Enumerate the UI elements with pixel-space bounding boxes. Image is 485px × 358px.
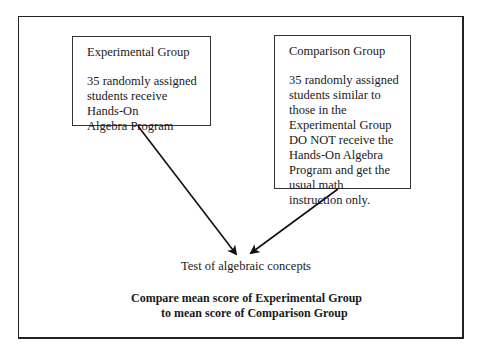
compare-means-line-1: Compare mean score of Experimental Group bbox=[131, 291, 362, 306]
comparison-group-title: Comparison Group bbox=[289, 44, 400, 59]
comparison-group-description: 35 randomly assigned students similar to… bbox=[289, 73, 400, 208]
experimental-group-description: 35 randomly assigned students receive Ha… bbox=[87, 74, 200, 134]
test-label: Test of algebraic concepts bbox=[181, 259, 311, 274]
experimental-group-box: Experimental Group 35 randomly assigned … bbox=[72, 36, 211, 126]
compare-means-line-2: to mean score of Comparison Group bbox=[131, 306, 362, 321]
comparison-group-box: Comparison Group 35 randomly assigned st… bbox=[274, 35, 411, 189]
experimental-group-title: Experimental Group bbox=[87, 45, 200, 60]
compare-means-label: Compare mean score of Experimental Group… bbox=[131, 291, 362, 321]
